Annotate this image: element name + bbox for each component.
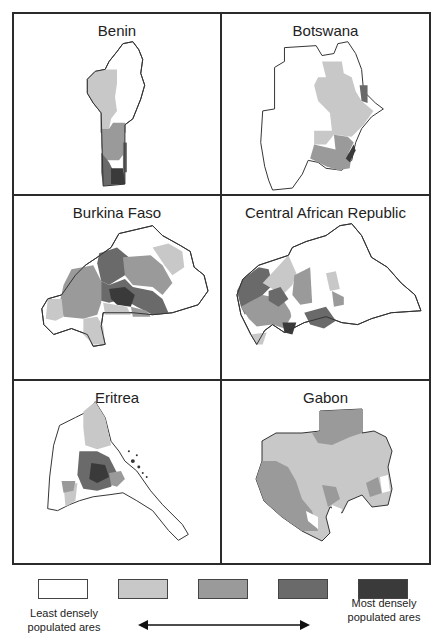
double-arrow-icon (138, 618, 310, 632)
panel-benin: Benin (14, 14, 222, 196)
central-african-republic-map (222, 196, 429, 379)
legend-swatch-level-4 (278, 579, 328, 599)
panel-central-african-republic: Central African Republic (222, 196, 429, 381)
legend-low-label: Least densely populated ares (18, 606, 110, 634)
panel-burkina-faso: Burkina Faso (14, 196, 222, 381)
gabon-map (222, 381, 429, 563)
legend-swatch-level-2 (118, 579, 168, 599)
burkina-faso-map (14, 196, 220, 379)
map-grid: Benin Botswana Burkina Faso (12, 12, 431, 565)
benin-map (14, 14, 220, 194)
panel-eritrea: Eritrea (14, 381, 222, 563)
eritrea-map (14, 381, 220, 563)
panel-gabon: Gabon (222, 381, 429, 563)
botswana-map (222, 14, 429, 194)
legend-high-label: Most densely populated ares (338, 596, 430, 624)
legend-swatch-level-3 (198, 579, 248, 599)
legend-swatch-level-1 (38, 579, 88, 599)
legend: Least densely populated ares Most densel… (0, 576, 441, 640)
panel-botswana: Botswana (222, 14, 429, 196)
